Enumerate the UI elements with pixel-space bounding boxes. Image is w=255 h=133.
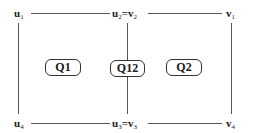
region-q12: Q12 <box>110 60 145 77</box>
edge-v3-v4 <box>148 123 222 124</box>
edge-shared-upper <box>127 23 128 60</box>
vertex-v3-sub: 3 <box>133 123 137 131</box>
vertex-v4-sub: 4 <box>232 123 236 131</box>
vertex-u1: u1 <box>14 7 24 19</box>
edge-u1-u2 <box>31 13 110 14</box>
quadrilateral-diagram: u1 u2=v2 v1 u4 u3=v3 v4 Q1 Q12 Q2 <box>0 0 255 133</box>
vertex-v1: v1 <box>226 7 235 19</box>
vertex-v2-sub: 2 <box>133 13 137 21</box>
region-q1: Q1 <box>45 59 81 76</box>
vertex-u4-sub: 4 <box>20 123 24 131</box>
region-q2: Q2 <box>166 59 202 76</box>
vertex-u1-sub: 1 <box>20 13 24 21</box>
edge-u4-u3 <box>31 123 110 124</box>
vertex-u4: u4 <box>14 117 24 129</box>
edge-v2-v1 <box>148 13 222 14</box>
region-q2-label: Q2 <box>176 60 191 75</box>
edge-u1-u4 <box>18 23 19 114</box>
edge-v1-v4 <box>231 23 232 114</box>
vertex-u2-v2: u2=v2 <box>112 7 137 19</box>
region-q1-label: Q1 <box>55 60 70 75</box>
region-q12-label: Q12 <box>117 61 138 76</box>
vertex-v1-sub: 1 <box>232 13 236 21</box>
edge-shared-lower <box>127 77 128 114</box>
vertex-u3-v3: u3=v3 <box>112 117 137 129</box>
vertex-v4: v4 <box>226 117 235 129</box>
